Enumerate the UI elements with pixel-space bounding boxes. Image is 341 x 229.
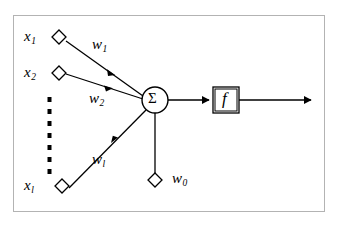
bias-node-w0 xyxy=(148,173,162,187)
label-w0: w0 xyxy=(172,171,187,186)
vertical-ellipsis xyxy=(48,97,52,174)
edge-xl-to-sum xyxy=(69,110,146,188)
label-w1: w1 xyxy=(92,37,107,52)
input-node-x2 xyxy=(52,66,66,80)
edge-x2-arrowhead xyxy=(104,86,113,92)
activation-function-symbol: f xyxy=(222,90,227,107)
edge-x1-arrowhead xyxy=(107,69,115,76)
label-x2: x2 xyxy=(24,65,35,80)
label-w2: w2 xyxy=(89,91,104,106)
input-node-x1 xyxy=(52,30,66,44)
input-node-xl xyxy=(55,179,69,193)
label-wl: wl xyxy=(92,152,105,167)
summation-symbol: Σ xyxy=(148,91,157,106)
label-xl: xl xyxy=(24,178,33,193)
neuron-diagram-figure: x1 x2 xl w1 w2 wl w0 Σ f xyxy=(0,0,341,229)
diagram-canvas xyxy=(0,0,341,229)
label-x1: x1 xyxy=(24,29,35,44)
